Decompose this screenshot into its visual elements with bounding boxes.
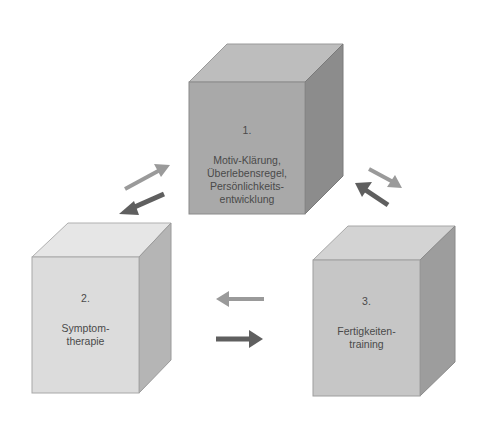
arrow-2-to-1: [125, 164, 170, 189]
box-1-label: 1. Motiv-Klärung, Überlebensregel, Persö…: [189, 124, 305, 206]
arrow-1-to-3: [369, 169, 402, 188]
therapy-model-diagram: [0, 0, 479, 425]
arrow-2-to-3: [216, 330, 263, 348]
box-2-line-1: Symptom-: [32, 322, 139, 335]
box-1-number: 1.: [189, 124, 305, 137]
box-2-number: 2.: [32, 292, 139, 305]
box-2-label: 2. Symptom- therapie: [32, 292, 139, 348]
arrow-1-to-2: [119, 194, 164, 215]
box-1-line-2: Überlebensregel,: [189, 167, 305, 180]
box-3-label: 3. Fertigkeiten- training: [313, 295, 420, 351]
box-2-line-2: therapie: [32, 335, 139, 348]
box-1-line-1: Motiv-Klärung,: [189, 154, 305, 167]
arrow-3-to-2: [216, 291, 264, 307]
box-1-line-4: entwicklung: [189, 193, 305, 206]
box-3-line-2: training: [313, 338, 420, 351]
arrow-3-to-1: [355, 182, 388, 205]
box-3-line-1: Fertigkeiten-: [313, 325, 420, 338]
box-1-line-3: Persönlichkeits-: [189, 180, 305, 193]
box-3-number: 3.: [313, 295, 420, 308]
